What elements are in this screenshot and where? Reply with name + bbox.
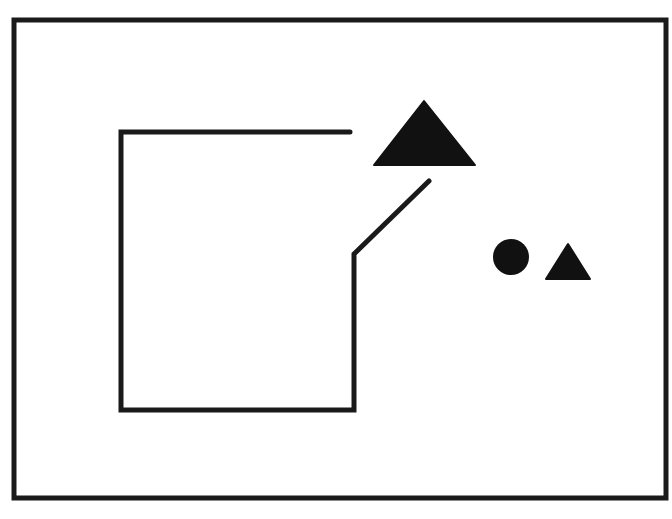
diagram-canvas <box>0 0 672 519</box>
circle-shape <box>493 239 529 275</box>
